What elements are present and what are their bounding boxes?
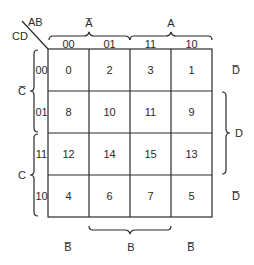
kmap-cell: 6	[89, 175, 130, 217]
row-label-d-bar-bottom: D̅	[230, 190, 242, 202]
kmap-cell: 3	[130, 49, 171, 91]
kmap-cell: 2	[89, 49, 130, 91]
row-group-c-bar: C̅	[17, 85, 27, 97]
row-group-c: C	[17, 169, 27, 181]
kmap-cell: 11	[130, 91, 171, 133]
kmap-cell: 9	[171, 91, 212, 133]
kmap-cell: 14	[89, 133, 130, 175]
row-label-d: D	[233, 127, 245, 139]
row-vars-label: CD	[12, 30, 28, 42]
col-group-a-bar: A̅	[83, 17, 95, 29]
kmap-cell: 0	[48, 49, 89, 91]
bottom-label-b-bar-right: B̅	[185, 241, 197, 253]
brace-c-bar	[30, 50, 38, 132]
row-header-10: 10	[35, 190, 48, 202]
bottom-label-b-bar-left: B̅	[62, 241, 74, 253]
col-vars-label: AB	[28, 16, 43, 28]
col-group-a: A	[165, 17, 177, 29]
brace-d	[222, 92, 230, 174]
kmap-cell: 15	[130, 133, 171, 175]
brace-b	[89, 226, 171, 234]
kmap-cell: 8	[48, 91, 89, 133]
row-header-00: 00	[35, 64, 48, 76]
kmap-cell: 13	[171, 133, 212, 175]
kmap-cell: 4	[48, 175, 89, 217]
row-label-d-bar-top: D̅	[230, 64, 242, 76]
kmap-cell: 7	[130, 175, 171, 217]
kmap-cell: 10	[89, 91, 130, 133]
row-header-11: 11	[35, 148, 48, 160]
kmap-cell: 1	[171, 49, 212, 91]
row-header-01: 01	[35, 106, 48, 118]
bottom-label-b: B	[125, 241, 137, 253]
brace-c	[30, 134, 38, 216]
kmap-cell: 12	[48, 133, 89, 175]
kmap-cell: 5	[171, 175, 212, 217]
